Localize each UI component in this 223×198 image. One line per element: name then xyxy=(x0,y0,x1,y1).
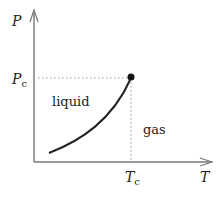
gas-region-label: gas xyxy=(143,122,166,137)
liquid-region-label: liquid xyxy=(52,94,90,109)
critical-point-dot xyxy=(128,74,135,81)
coexistence-curve xyxy=(49,78,131,153)
phase-diagram: P Pc liquid gas Tc T xyxy=(0,0,223,198)
tc-tick-label: Tc xyxy=(125,169,140,187)
x-axis-label: T xyxy=(200,169,211,185)
pc-tick-label: Pc xyxy=(11,71,27,89)
y-axis-label: P xyxy=(11,13,22,29)
